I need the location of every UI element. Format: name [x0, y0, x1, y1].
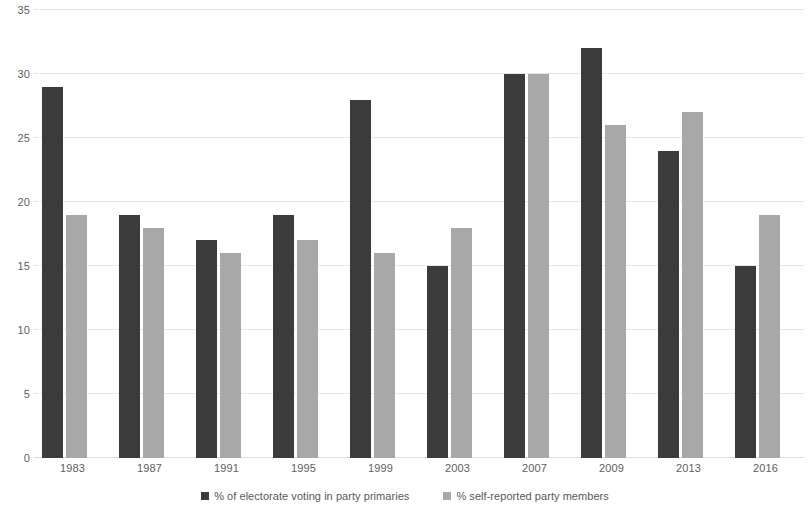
bar-group [573, 10, 650, 458]
bar [504, 74, 525, 458]
x-tick-label: 2013 [650, 462, 727, 475]
bar [528, 74, 549, 458]
bar-group [34, 10, 111, 458]
x-tick-label: 1991 [188, 462, 265, 475]
bar [658, 151, 679, 458]
legend-swatch-icon [201, 492, 209, 500]
x-tick-label: 2016 [727, 462, 804, 475]
bar-group [419, 10, 496, 458]
chart-legend: % of electorate voting in party primarie… [0, 488, 810, 504]
x-tick-label: 1995 [265, 462, 342, 475]
plot-area [34, 10, 804, 458]
bar-group [650, 10, 727, 458]
legend-item[interactable]: % self-reported party members [443, 490, 608, 502]
y-tick-label: 20 [2, 197, 30, 208]
legend-label: % self-reported party members [456, 490, 608, 502]
x-tick-label: 1983 [34, 462, 111, 475]
bar [42, 87, 63, 458]
y-tick-label: 15 [2, 261, 30, 272]
y-axis: 05101520253035 [0, 10, 30, 458]
bar [66, 215, 87, 458]
legend-item[interactable]: % of electorate voting in party primarie… [201, 490, 409, 502]
legend-swatch-icon [443, 492, 451, 500]
x-tick-label: 1987 [111, 462, 188, 475]
y-tick-label: 30 [2, 69, 30, 80]
bar [143, 228, 164, 458]
y-tick-label: 0 [2, 453, 30, 464]
bar [374, 253, 395, 458]
x-axis: 1983198719911995199920032007200920132016 [34, 462, 804, 480]
bar [759, 215, 780, 458]
bar [581, 48, 602, 458]
y-tick-label: 35 [2, 5, 30, 16]
y-tick-label: 5 [2, 389, 30, 400]
bar-group [188, 10, 265, 458]
bar [682, 112, 703, 458]
bar-group [727, 10, 804, 458]
bar [297, 240, 318, 458]
bar [196, 240, 217, 458]
x-tick-label: 2003 [419, 462, 496, 475]
bar-group [265, 10, 342, 458]
bar [273, 215, 294, 458]
bar-chart: 05101520253035 1983198719911995199920032… [0, 0, 810, 506]
y-tick-label: 10 [2, 325, 30, 336]
x-tick-label: 2009 [573, 462, 650, 475]
bar [350, 100, 371, 458]
legend-label: % of electorate voting in party primarie… [214, 490, 409, 502]
bar [735, 266, 756, 458]
bar [119, 215, 140, 458]
bar-group [342, 10, 419, 458]
y-tick-label: 25 [2, 133, 30, 144]
bar [451, 228, 472, 458]
bar-group [496, 10, 573, 458]
bar-group [111, 10, 188, 458]
x-tick-label: 2007 [496, 462, 573, 475]
bar [220, 253, 241, 458]
bar [605, 125, 626, 458]
bar [427, 266, 448, 458]
x-tick-label: 1999 [342, 462, 419, 475]
